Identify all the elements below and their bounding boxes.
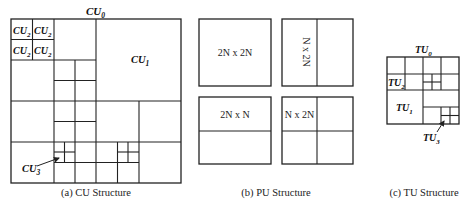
cu0-title: CU0: [86, 5, 105, 20]
cu3-label: CU3: [22, 163, 41, 177]
coding-structure-diagram: CU0 CU2 CU2 CU2 CU2 CU1 CU3 (a) CU Struc…: [0, 0, 466, 203]
pu-caption: (b) PU Structure: [241, 187, 311, 199]
pu-label: 2N x 2N: [218, 47, 252, 58]
cu2-label: CU2: [13, 45, 31, 59]
tu-caption: (c) TU Structure: [389, 187, 459, 199]
pu-label: 2N x N: [220, 109, 249, 120]
pu-structure: 2N x 2N N x 2N 2N x N N x 2N (b) PU Stru…: [199, 19, 353, 199]
tu1-label: TU1: [396, 102, 413, 116]
pu-label: N x 2N: [301, 37, 312, 66]
cu2-label: CU2: [13, 25, 31, 39]
cu2-label: CU2: [34, 25, 52, 39]
tu-structure: TU0 TU2 TU1 TU3 (c) TU Structure: [387, 44, 459, 199]
pu-label: N x 2N: [285, 109, 314, 120]
tu0-title: TU0: [415, 44, 432, 58]
cu1-label: CU1: [131, 54, 149, 68]
tu3-label: TU3: [423, 132, 440, 146]
cu-structure: CU0 CU2 CU2 CU2 CU2 CU1 CU3 (a) CU Struc…: [11, 5, 181, 199]
cu2-label: CU2: [34, 45, 52, 59]
tu2-label: TU2: [388, 77, 405, 91]
cu-caption: (a) CU Structure: [61, 187, 131, 199]
